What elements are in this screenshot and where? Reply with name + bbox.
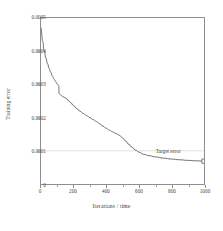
plot-svg [41,18,204,184]
x-tick-label: 1000 [200,188,211,194]
training-error-chart: 00.00010.00020.00030.00040.0005020040060… [0,0,223,231]
x-tick-label: 800 [168,188,176,194]
data-series-group [41,27,204,161]
x-tick-minor [156,185,157,187]
x-tick-minor [189,185,190,187]
plot-area [41,18,204,184]
x-tick-label: 600 [135,188,143,194]
data-line-0 [41,27,204,161]
x-tick-minor [90,185,91,187]
x-tick-mark [205,185,206,188]
target-error-annotation: Target error [156,148,181,154]
x-tick-mark [106,185,107,188]
plot-frame [40,17,205,185]
x-tick-label: 400 [102,188,110,194]
x-tick-label: 200 [69,188,77,194]
x-tick-mark [172,185,173,188]
y-axis-title: Training error [5,74,11,134]
x-tick-label: 0 [39,188,42,194]
x-tick-mark [73,185,74,188]
x-tick-mark [139,185,140,188]
x-tick-minor [57,185,58,187]
x-tick-mark [40,185,41,188]
x-tick-minor [123,185,124,187]
x-axis-title: Iterations / time [0,203,223,209]
endpoint-marker [202,159,204,163]
endpoint-marker-group [202,159,204,163]
